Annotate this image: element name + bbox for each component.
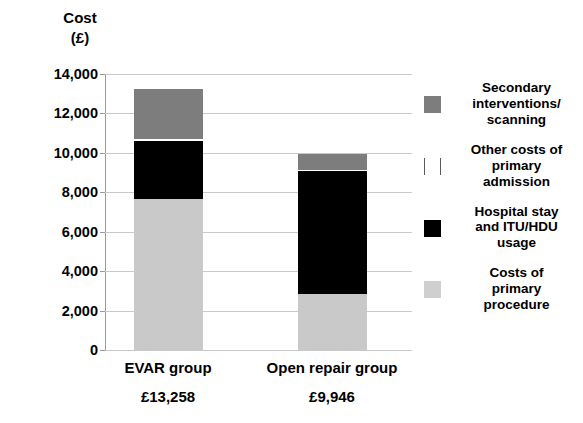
bar-segment[interactable]	[298, 154, 367, 170]
y-axis-tick	[100, 113, 105, 114]
legend-label-line: Secondary	[450, 80, 583, 96]
bar-segment[interactable]	[298, 171, 367, 294]
legend-label-line: admission	[450, 174, 583, 190]
legend-item[interactable]: Hospital stayand ITU/HDUusage	[424, 204, 583, 252]
legend-label-line: usage	[450, 235, 583, 251]
y-axis-tick	[100, 153, 105, 154]
gridline	[105, 350, 412, 351]
y-axis-title-line-1: Cost	[30, 8, 130, 28]
y-axis-tick	[100, 232, 105, 233]
category-total: £9,946	[232, 388, 432, 405]
y-axis-tick-label: 6,000	[8, 224, 98, 240]
y-axis-tick-label: 10,000	[8, 145, 98, 161]
legend-item[interactable]: Other costs ofprimaryadmission	[424, 142, 583, 190]
bar-group[interactable]	[298, 74, 367, 350]
legend-label-line: interventions/	[450, 96, 583, 112]
y-axis-title-line-2: (£)	[30, 28, 130, 48]
cost-stacked-bar-chart: Cost (£) 02,0004,0006,0008,00010,00012,0…	[0, 0, 583, 423]
legend-swatch	[424, 281, 441, 298]
legend-label: Hospital stayand ITU/HDUusage	[450, 204, 583, 252]
y-axis-tick	[100, 271, 105, 272]
y-axis-title: Cost (£)	[30, 8, 130, 49]
y-axis-tick-label: 14,000	[8, 66, 98, 82]
y-axis-tick	[100, 192, 105, 193]
y-axis-tick-label: 0	[8, 342, 98, 358]
category-label-block: Open repair group£9,946	[232, 359, 432, 405]
legend-swatch	[424, 158, 441, 175]
legend-item[interactable]: Secondaryinterventions/scanning	[424, 80, 583, 128]
y-axis-tick-label: 8,000	[8, 184, 98, 200]
y-axis-line	[105, 74, 106, 350]
y-axis-tick	[100, 311, 105, 312]
y-axis-tick-label: 4,000	[8, 263, 98, 279]
category-name: Open repair group	[232, 359, 432, 376]
legend-label: Costs ofprimaryprocedure	[450, 265, 583, 313]
legend-label: Secondaryinterventions/scanning	[450, 80, 583, 128]
legend-label-line: Hospital stay	[450, 204, 583, 220]
legend-label-line: primary	[450, 158, 583, 174]
y-axis-tick-label: 2,000	[8, 303, 98, 319]
legend-label-line: and ITU/HDU	[450, 219, 583, 235]
legend-label-line: Costs of	[450, 265, 583, 281]
legend-label-line: primary	[450, 281, 583, 297]
legend-swatch	[424, 220, 441, 237]
legend-label-line: Other costs of	[450, 142, 583, 158]
legend-item[interactable]: Costs ofprimaryprocedure	[424, 265, 583, 313]
legend-label-line: procedure	[450, 297, 583, 313]
bar-segment[interactable]	[134, 141, 203, 199]
legend-label-line: scanning	[450, 112, 583, 128]
legend-label: Other costs ofprimaryadmission	[450, 142, 583, 190]
legend-swatch	[424, 96, 441, 113]
bar-group[interactable]	[134, 74, 203, 350]
chart-legend: Secondaryinterventions/scanningOther cos…	[424, 80, 583, 327]
bar-segment[interactable]	[134, 199, 203, 350]
bar-segment[interactable]	[298, 294, 367, 350]
plot-area	[105, 74, 412, 350]
y-axis-tick-label: 12,000	[8, 105, 98, 121]
y-axis-tick	[100, 74, 105, 75]
bar-segment[interactable]	[134, 89, 203, 139]
bar-segment[interactable]	[134, 139, 203, 141]
bar-segment[interactable]	[298, 170, 367, 171]
y-axis-tick	[100, 350, 105, 351]
